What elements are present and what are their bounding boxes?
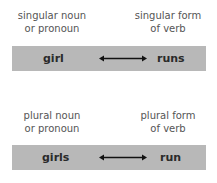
noun-word: girl [43, 46, 64, 71]
singular-agreement-bar: girl runs [12, 46, 206, 71]
label-line: singular form [118, 9, 217, 22]
plural-verb-label: plural form of verb [118, 109, 217, 135]
label-line: plural form [118, 109, 217, 122]
verb-word: runs [157, 46, 185, 71]
label-line: of verb [118, 22, 217, 35]
verb-word: run [160, 145, 181, 170]
singular-noun-label: singular noun or pronoun [2, 9, 102, 35]
noun-word: girls [42, 145, 69, 170]
label-line: plural noun [2, 109, 102, 122]
double-arrow-icon [99, 154, 147, 161]
double-arrow-icon [99, 55, 147, 62]
label-line: or pronoun [2, 122, 102, 135]
label-line: singular noun [2, 9, 102, 22]
label-line: of verb [118, 122, 217, 135]
plural-noun-label: plural noun or pronoun [2, 109, 102, 135]
label-line: or pronoun [2, 22, 102, 35]
singular-verb-label: singular form of verb [118, 9, 217, 35]
plural-agreement-bar: girls run [12, 145, 206, 170]
